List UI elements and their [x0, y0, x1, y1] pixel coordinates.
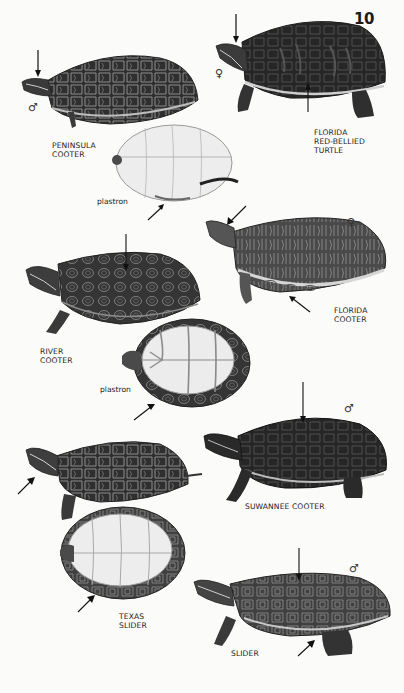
label-florida-cooter: FLORIDA COOTER: [334, 306, 367, 324]
river-cooter-plastron: [122, 319, 250, 407]
female-symbol-icon: ♀: [347, 217, 355, 228]
male-symbol-icon: ♂: [28, 102, 38, 113]
label-plastron: plastron: [100, 385, 131, 394]
label-plastron: plastron: [97, 197, 128, 206]
label-florida-red-bellied-turtle: FLORIDA RED-BELLIED TURTLE: [314, 128, 365, 156]
field-guide-plate: 10: [0, 0, 404, 693]
arrow-icon: [148, 207, 162, 220]
label-texas-slider: TEXAS SLIDER: [119, 612, 147, 630]
arrow-head-icon: [158, 204, 164, 210]
florida-red-bellied-turtle-carapace: [216, 22, 385, 118]
arrow-head-icon: [289, 296, 296, 302]
texas-slider-plastron: [60, 507, 185, 599]
arrow-head-icon: [227, 217, 234, 225]
male-symbol-icon: ♂: [349, 563, 359, 574]
peninsula-cooter-carapace: [22, 56, 198, 128]
label-slider: SLIDER: [231, 649, 259, 658]
suwannee-cooter-carapace: [204, 418, 386, 502]
arrow-head-icon: [233, 36, 239, 43]
florida-cooter-carapace: [206, 218, 386, 304]
female-symbol-icon: ♀: [215, 68, 223, 79]
arrow-head-icon: [35, 70, 41, 77]
label-suwannee-cooter: SUWANNEE COOTER: [245, 502, 325, 511]
label-river-cooter: RIVER COOTER: [40, 347, 73, 365]
peninsula-cooter-plastron: [112, 125, 238, 201]
arrow-icon: [230, 206, 246, 222]
arrow-icon: [134, 406, 152, 420]
male-symbol-icon: ♂: [344, 403, 354, 414]
slider-carapace: [194, 573, 390, 656]
label-peninsula-cooter: PENINSULA COOTER: [52, 141, 96, 159]
arrow-icon: [292, 298, 310, 312]
